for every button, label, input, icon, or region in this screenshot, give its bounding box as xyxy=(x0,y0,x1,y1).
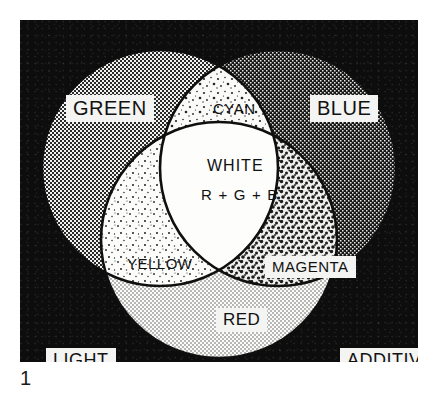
label-light: LIGHT xyxy=(46,348,116,362)
label-additive: ADDITIVE xyxy=(340,348,418,362)
label-white: WHITE xyxy=(207,158,264,174)
label-white-formula: R + G + B xyxy=(201,187,279,202)
figure-additive-color-venn: GREEN CYAN BLUE WHITE R + G + B YELLOW M… xyxy=(0,0,443,397)
label-yellow: YELLOW xyxy=(127,256,193,271)
label-blue: BLUE xyxy=(310,95,378,122)
label-green: GREEN xyxy=(66,95,154,122)
label-cyan: CYAN xyxy=(213,101,256,116)
label-red: RED xyxy=(216,308,267,332)
figure-caption-number: 1 xyxy=(20,368,31,388)
diagram-plate: GREEN CYAN BLUE WHITE R + G + B YELLOW M… xyxy=(20,20,418,362)
label-magenta: MAGENTA xyxy=(265,256,356,278)
